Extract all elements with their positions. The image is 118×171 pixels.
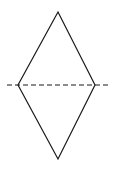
rhombus-diagram	[0, 0, 118, 171]
diagram-canvas	[0, 0, 118, 171]
